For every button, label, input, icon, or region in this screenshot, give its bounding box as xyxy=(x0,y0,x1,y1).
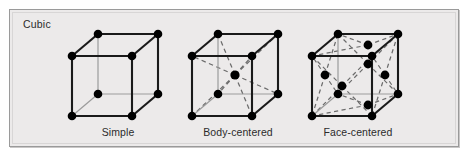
group-title: Cubic xyxy=(23,18,51,30)
atom-body-center xyxy=(230,70,239,79)
unit-cell-body-centered xyxy=(178,26,298,126)
caption-simple: Simple xyxy=(58,126,178,138)
atom-face-center-bottom xyxy=(364,101,373,110)
caption-body-centered: Body-centered xyxy=(178,126,298,138)
unit-cell-simple xyxy=(58,26,178,126)
unit-cell-face-centered xyxy=(298,26,418,126)
figure-root: Cubic xyxy=(0,0,473,158)
atom-face-center-front xyxy=(338,82,347,91)
atom-face-center-back xyxy=(364,60,373,69)
caption-face-centered: Face-centered xyxy=(298,126,418,138)
atom-face-center-left xyxy=(321,71,330,80)
cell-edges-simple xyxy=(72,34,158,116)
atom-face-center-right xyxy=(381,71,390,80)
figure-frame: Cubic xyxy=(9,9,459,147)
atom-face-center-top xyxy=(364,41,373,50)
